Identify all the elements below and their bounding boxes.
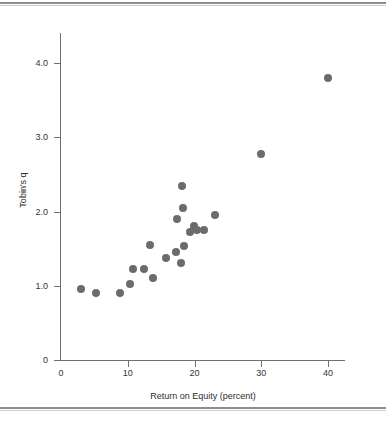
x-tick-label: 40 [308,369,348,378]
y-axis-title: Tobin's q [18,145,28,235]
scatter-point [162,254,170,262]
scatter-point [172,248,180,256]
y-tick-label: 2.0 [8,208,48,217]
x-axis-line [61,360,345,361]
x-axis-title: Return on Equity (percent) [61,391,345,401]
scatter-point [211,211,219,219]
bottom-rule [0,407,386,409]
bottom-rule-thin [0,410,386,411]
scatter-point [116,289,124,297]
scatter-point [173,215,181,223]
scatter-point [129,265,137,273]
scatter-point [177,259,185,267]
scatter-point [126,280,134,288]
x-tick-mark [195,361,196,367]
scatter-point [179,204,187,212]
x-tick-label: 0 [41,369,81,378]
scatter-point [149,274,157,282]
y-tick-mark [54,63,61,64]
scatter-point [180,242,188,250]
x-tick-mark [261,361,262,367]
y-tick-mark [54,360,61,361]
top-rule-thin [0,5,386,6]
scatter-point [178,182,186,190]
scatter-point [92,289,100,297]
x-tick-mark [328,361,329,367]
y-tick-label: 1.0 [8,282,48,291]
scatter-point [257,150,265,158]
x-tick-label: 30 [241,369,281,378]
scatter-point [77,285,85,293]
figure-container: 01.02.03.04.0 010203040 Tobin's q Return… [0,0,386,423]
y-tick-label: 4.0 [8,59,48,68]
scatter-point [140,265,148,273]
x-tick-label: 20 [175,369,215,378]
y-tick-label: 0 [8,356,48,365]
x-tick-label: 10 [108,369,148,378]
clipped-caption-text [70,0,320,3]
y-tick-label: 3.0 [8,133,48,142]
scatter-point [324,74,332,82]
scatter-plot-area [61,33,345,360]
x-tick-mark [128,361,129,367]
scatter-point [200,226,208,234]
y-tick-mark [54,137,61,138]
y-tick-mark [54,212,61,213]
y-tick-mark [54,286,61,287]
scatter-point [146,241,154,249]
